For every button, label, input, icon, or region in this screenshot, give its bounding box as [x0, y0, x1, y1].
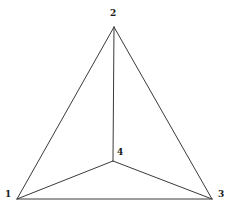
vertex-label-3: 3 [218, 190, 224, 199]
vertex-label-4: 4 [117, 148, 123, 157]
diagram-canvas: 1234 [0, 0, 229, 213]
edge-4-2 [113, 27, 114, 161]
graph-edges-layer [0, 0, 229, 213]
vertex-label-1: 1 [5, 190, 11, 199]
edge-1-2 [17, 27, 114, 199]
edge-4-1 [17, 161, 113, 199]
edge-4-3 [113, 161, 212, 199]
vertex-label-2: 2 [110, 9, 116, 18]
edge-2-3 [114, 27, 212, 199]
